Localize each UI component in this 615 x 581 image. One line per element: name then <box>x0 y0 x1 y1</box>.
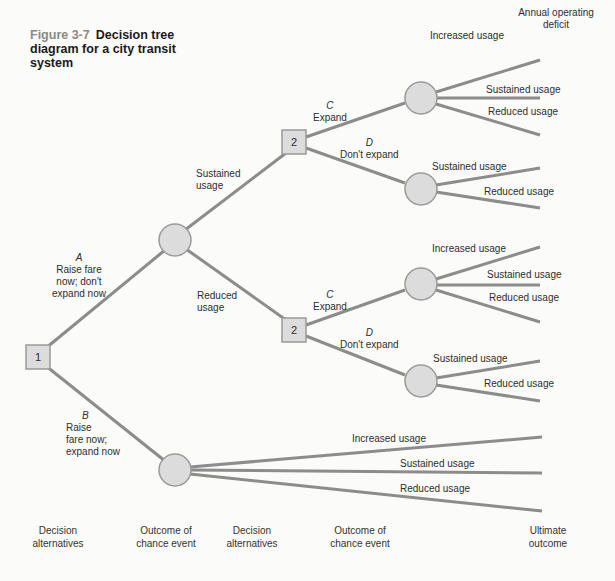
outcome-label: Increased usage <box>432 243 506 255</box>
outcome-label: Sustained usage <box>433 353 508 365</box>
outcome-label: Increased usage <box>430 30 504 42</box>
decision-node-2-top-label: 2 <box>291 136 297 148</box>
outcome-label: Sustained usage <box>432 161 507 173</box>
branch-reduced-label: Reducedusage <box>197 290 237 314</box>
chance-node-bottom-C <box>405 268 437 300</box>
outcome-label: Sustained usage <box>487 269 562 281</box>
branch-top-C-label: CExpand <box>313 100 347 124</box>
column-header-decision-alternatives-2: Decisionalternatives <box>216 524 288 550</box>
outcome-label: Reduced usage <box>484 378 554 390</box>
branch-top-D-label: DDon't expand <box>340 137 399 161</box>
decision-node-2-bottom-label: 2 <box>291 324 297 336</box>
branch-A-label: A Raise fare now; don't expand now <box>52 252 106 300</box>
outcome-label: Reduced usage <box>484 186 554 198</box>
branch-sustained-label: Sustainedusage <box>196 168 240 192</box>
branch-B-label: B Raise fare now; expand now <box>66 410 120 458</box>
outcome-label: Sustained usage <box>486 84 561 96</box>
chance-node-top-D <box>405 173 437 205</box>
decision-node-1-label: 1 <box>35 351 41 363</box>
chance-node-bottom-D <box>405 365 437 397</box>
figure-number: Figure 3-7 <box>30 28 90 42</box>
outcome-label: Increased usage <box>352 433 426 445</box>
annual-operating-deficit-header: Annual operatingdeficit <box>501 7 611 31</box>
column-header-decision-alternatives: Decisionalternatives <box>22 524 94 550</box>
chance-node-A <box>159 224 191 256</box>
chance-node-top-C <box>405 82 437 114</box>
column-header-outcome-chance: Outcome ofchance event <box>124 524 208 550</box>
column-header-ultimate-outcome: Ultimateoutcome <box>518 524 578 550</box>
figure-caption: Figure 3-7Decision tree diagram for a ci… <box>30 28 220 70</box>
branch-bottom-C-label: CExpand <box>313 289 347 313</box>
outcome-label: Reduced usage <box>488 106 558 118</box>
branch-bottom-D-label: DDon't expand <box>340 327 399 351</box>
outcome-label: Reduced usage <box>400 483 470 495</box>
outcome-label: Sustained usage <box>400 458 475 470</box>
chance-node-B <box>159 454 191 486</box>
column-header-outcome-chance-2: Outcome ofchance event <box>318 524 402 550</box>
outcome-label: Reduced usage <box>489 292 559 304</box>
